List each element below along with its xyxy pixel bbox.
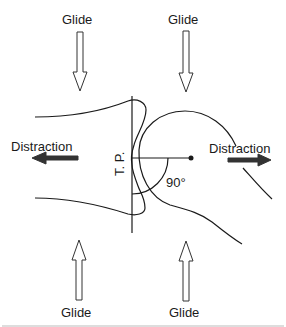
angle-label: 90° — [166, 175, 186, 190]
glide-label-bottom-right: Glide — [169, 305, 199, 320]
convex-bone-outline — [139, 111, 272, 244]
glide-arrow-top-right-icon — [179, 31, 193, 92]
distraction-label-right: Distraction — [209, 141, 270, 156]
joint-mobilization-diagram: Glide Glide Distraction Distraction T. P… — [0, 0, 286, 327]
treatment-plane-label: T. P. — [112, 152, 127, 176]
glide-label-top-left: Glide — [62, 12, 92, 27]
glide-arrow-top-left-icon — [73, 32, 87, 91]
glide-arrow-bottom-left-icon — [72, 240, 86, 300]
distraction-label-left: Distraction — [11, 139, 72, 154]
center-point-dot — [189, 156, 194, 161]
right-angle-arc — [132, 158, 168, 194]
glide-label-bottom-left: Glide — [61, 305, 91, 320]
glide-label-top-right: Glide — [168, 12, 198, 27]
glide-arrow-bottom-right-icon — [179, 241, 193, 301]
